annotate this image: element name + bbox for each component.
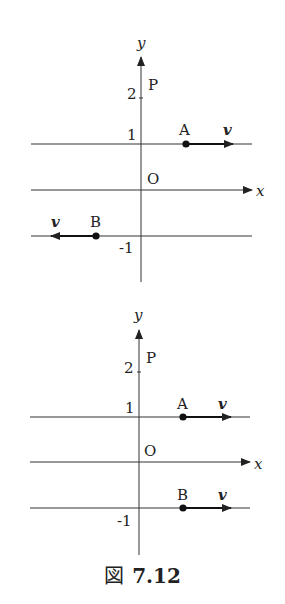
tick-label-m1: -1	[119, 239, 134, 257]
tick-label-1: 1	[125, 399, 135, 417]
point-p-label: P	[146, 349, 156, 367]
diagram-bottom: y x O 2 P 1 -1 A v B v	[30, 306, 263, 555]
diagram-top: y x O 2 P 1 -1 A v B v	[31, 34, 265, 282]
caption-prefix: 図	[104, 564, 124, 588]
vector-b-label: v	[218, 486, 227, 504]
vector-a-label: v	[223, 121, 232, 139]
origin-label: O	[147, 170, 159, 188]
tick-label-m1: -1	[117, 512, 132, 530]
vector-b-label: v	[51, 213, 60, 231]
vector-a-label: v	[218, 395, 227, 413]
point-b	[179, 504, 186, 511]
point-a-label: A	[178, 121, 190, 139]
point-b-label: B	[177, 486, 188, 504]
figure-canvas: y x O 2 P 1 -1 A v B v y x O 2 P 1 -1 A	[0, 0, 285, 604]
x-axis-label: x	[254, 455, 263, 473]
point-p-label: P	[148, 76, 158, 94]
origin-label: O	[144, 442, 156, 460]
x-axis-label: x	[256, 182, 265, 200]
tick-label-2: 2	[127, 85, 137, 103]
point-a	[182, 140, 189, 147]
tick-label-1: 1	[127, 126, 137, 144]
point-b-label: B	[90, 213, 101, 231]
caption-number: 7.12	[132, 564, 181, 588]
figure-caption: 図7.12	[0, 560, 285, 589]
y-axis-label: y	[136, 34, 146, 52]
tick-label-2: 2	[124, 359, 134, 377]
point-a	[179, 413, 186, 420]
point-a-label: A	[176, 395, 188, 413]
point-b	[92, 232, 99, 239]
y-axis-label: y	[133, 306, 143, 324]
